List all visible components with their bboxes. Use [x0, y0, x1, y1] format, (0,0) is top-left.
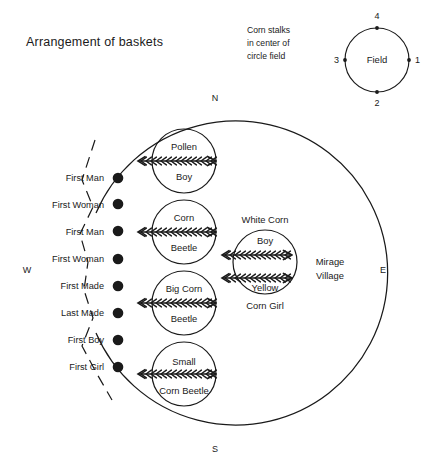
- inner-circle-3-top-label: Big Corn: [166, 283, 202, 294]
- basket-dot-4: [113, 254, 124, 265]
- field-marker-label-3: 3: [334, 55, 339, 65]
- inner-circle-2-bottom-label: Beetle: [171, 242, 198, 253]
- page-title: Arrangement of baskets: [26, 35, 163, 49]
- village-label-line-2: Village: [316, 270, 344, 281]
- basket-row-label-4: First Woman: [52, 254, 104, 264]
- inner-circle-4-top-label: Small: [172, 356, 195, 367]
- corn-stalk-arrow-4: [138, 369, 216, 378]
- corn-stalk-arrow-white-corn-boy: [222, 250, 292, 259]
- field-marker-label-2: 2: [374, 98, 379, 108]
- compass-north-label: N: [212, 93, 219, 103]
- corn-circle-below-label: Corn Girl: [246, 300, 284, 311]
- corn-stalk-arrow-1: [138, 156, 216, 165]
- compass-west-label: W: [23, 265, 32, 275]
- note-line-1: Corn stalks: [247, 25, 290, 35]
- basket-dot-1: [113, 173, 124, 184]
- compass-east-label: E: [380, 265, 386, 275]
- compass-south-label: S: [212, 444, 218, 454]
- corn-boy-girl-circle-group: White Corn Boy Yellow Corn Girl: [222, 214, 297, 311]
- note-line-2: in center of: [247, 38, 290, 48]
- basket-dot-8: [113, 362, 124, 373]
- village-label-line-1: Mirage: [316, 256, 345, 267]
- corn-stalk-arrow-2: [138, 227, 216, 236]
- basket-dot-2: [113, 199, 124, 210]
- basket-row-label-5: First Made: [61, 281, 104, 291]
- basket-dot-7: [113, 335, 124, 346]
- inner-circle-3-bottom-label: Beetle: [171, 313, 198, 324]
- corn-circle-top-label: Boy: [257, 235, 273, 246]
- corn-circle-bottom-label: Yellow: [252, 282, 279, 293]
- diagram-root: Arrangement of baskets Corn stalks in ce…: [0, 0, 428, 467]
- basket-dot-5: [113, 281, 124, 292]
- inner-circle-1-bottom-label: Boy: [176, 171, 192, 182]
- field-marker-north-dot: [375, 26, 379, 30]
- inner-circle-4-group: Small Corn Beetle: [138, 342, 216, 406]
- basket-row-label-6: Last Made: [61, 308, 104, 318]
- basket-dot-3: [113, 226, 124, 237]
- field-marker-label-4: 4: [374, 11, 379, 21]
- basket-dot-6: [113, 308, 124, 319]
- field-marker-label-1: 1: [415, 55, 420, 65]
- inner-circle-1-top-label: Pollen: [171, 141, 197, 152]
- inner-circle-3-group: Big Corn Beetle: [138, 271, 216, 335]
- corn-circle-above-label: White Corn: [242, 214, 289, 225]
- basket-dots-group: [113, 173, 124, 373]
- inner-circle-1-group: Pollen Boy: [138, 129, 216, 193]
- basket-row-label-7: First Boy: [68, 335, 105, 345]
- inner-circle-2-top-label: Corn: [174, 212, 194, 223]
- field-marker-east-dot: [407, 58, 411, 62]
- note-line-3: circle field: [247, 51, 285, 61]
- field-marker-south-dot: [375, 90, 379, 94]
- field-marker-west-dot: [343, 58, 347, 62]
- arrangement-of-baskets-diagram: Arrangement of baskets Corn stalks in ce…: [0, 0, 428, 467]
- inner-circle-4-bottom-label: Corn Beetle: [159, 385, 209, 396]
- basket-row-label-2: First Woman: [52, 200, 104, 210]
- basket-row-label-3: First Man: [66, 227, 104, 237]
- field-circle-label: Field: [367, 54, 388, 65]
- basket-row-label-8: First Girl: [69, 362, 104, 372]
- inner-circle-2-group: Corn Beetle: [138, 200, 216, 264]
- field-circle-group: Field 1 2 3 4: [334, 11, 420, 108]
- basket-row-label-1: First Man: [66, 173, 104, 183]
- corn-stalk-arrow-3: [138, 298, 216, 307]
